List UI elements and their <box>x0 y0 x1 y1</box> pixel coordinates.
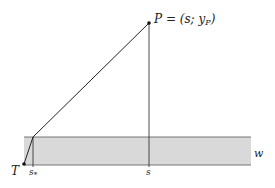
s-label: s <box>146 167 151 177</box>
w-label: w <box>254 147 264 160</box>
band-region <box>24 137 251 165</box>
point-p-dot <box>147 21 151 25</box>
point-t-dot <box>22 162 26 166</box>
diagram-canvas: P = (s; yP) T s* s w <box>0 0 275 188</box>
point-p-label: P = (s; yP) <box>153 12 216 27</box>
point-t-label: T <box>11 164 20 178</box>
s-star-label: s* <box>29 167 38 179</box>
